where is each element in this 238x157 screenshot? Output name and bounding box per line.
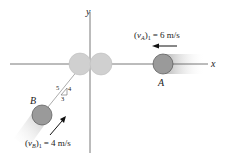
ghost-circle-A xyxy=(90,53,112,75)
arrowhead-A xyxy=(152,44,159,49)
velocity-label-B: (vB)1= 4 m/s xyxy=(25,138,71,149)
slope-hypotenuse: 5 xyxy=(56,84,59,91)
slope-triangle xyxy=(61,88,67,95)
particle-B xyxy=(32,105,52,125)
slope-horizontal: 3 xyxy=(61,95,64,102)
ghost-circle-B xyxy=(69,53,91,75)
y-axis-label: y xyxy=(85,6,91,17)
particle-A-label: A xyxy=(157,77,165,88)
collision-diagram: y x A B 5 4 3 (vA)1= 6 m/s (vB)1= 4 m/s xyxy=(0,0,238,157)
slope-vertical: 4 xyxy=(68,85,72,92)
velocity-label-A: (vA)1= 6 m/s xyxy=(134,30,180,41)
particle-A xyxy=(153,54,173,74)
velocity-arrow-B xyxy=(50,121,62,135)
x-axis-label: x xyxy=(210,58,216,69)
particle-B-label: B xyxy=(30,95,36,106)
